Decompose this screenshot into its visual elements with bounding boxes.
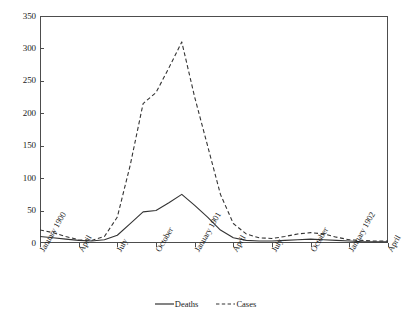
legend-entry-deaths: Deaths — [155, 298, 199, 309]
y-axis: 050100150200250300350 — [0, 0, 36, 317]
chart-lines — [40, 16, 388, 243]
y-tick-label: 100 — [6, 174, 36, 183]
x-tick-label: April — [386, 234, 403, 254]
legend-swatch-deaths-icon — [155, 301, 174, 307]
y-tick-label: 250 — [6, 76, 36, 85]
y-tick-mark — [40, 178, 44, 179]
y-tick-label: 350 — [6, 12, 36, 21]
y-tick-mark — [40, 48, 44, 49]
legend-swatch-cases-icon — [216, 301, 235, 307]
y-tick-mark — [40, 146, 44, 147]
y-tick-label: 0 — [6, 239, 36, 248]
y-tick-mark — [40, 81, 44, 82]
y-tick-label: 50 — [6, 206, 36, 215]
y-tick-mark — [40, 113, 44, 114]
y-tick-label: 150 — [6, 141, 36, 150]
legend-label: Cases — [236, 299, 256, 309]
chart-legend: DeathsCases — [0, 298, 411, 309]
chart-figure: 050100150200250300350 January 1900AprilJ… — [0, 0, 411, 317]
legend-label: Deaths — [175, 299, 199, 309]
y-tick-mark — [40, 211, 44, 212]
legend-entry-cases: Cases — [216, 298, 256, 309]
y-tick-label: 200 — [6, 109, 36, 118]
y-tick-label: 300 — [6, 44, 36, 53]
